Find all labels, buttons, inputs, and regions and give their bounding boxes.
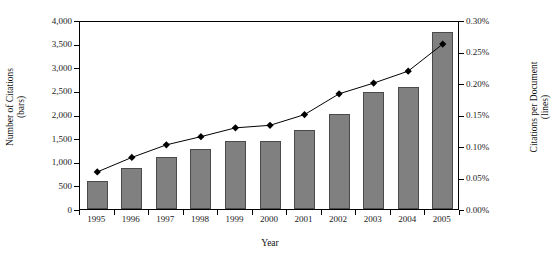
right-tick-label: 0.30% <box>466 17 512 26</box>
plot-area <box>79 21 459 210</box>
right-tick-label: 0.20% <box>466 80 512 89</box>
line-marker-1996 <box>128 154 135 161</box>
left-tick-label: 2,500 <box>30 87 72 96</box>
left-tick-label: 0 <box>30 206 72 215</box>
line-marker-2003 <box>370 80 377 87</box>
left-axis-title-line1: Number of Citations <box>5 37 16 177</box>
left-tick-label: 1,500 <box>30 135 72 144</box>
line-series-path <box>97 44 442 172</box>
line-marker-1997 <box>163 141 170 148</box>
left-tick-label: 2,000 <box>30 111 72 120</box>
citation-chart: Number of Citations (bars) Citations per… <box>0 0 556 257</box>
right-tick-label: 0.25% <box>466 48 512 57</box>
left-tick-label: 4,000 <box>30 17 72 26</box>
left-tick-label: 3,500 <box>30 40 72 49</box>
line-marker-2002 <box>335 90 342 97</box>
right-tick-label: 0.10% <box>466 143 512 152</box>
right-axis-title: Citations per Document (lines) <box>529 37 551 177</box>
right-tick-label: 0.05% <box>466 174 512 183</box>
left-tick-label: 1,000 <box>30 158 72 167</box>
left-axis-title-line2: (bars) <box>16 37 27 177</box>
line-series <box>80 22 460 211</box>
line-marker-1995 <box>94 168 101 175</box>
left-axis-title: Number of Citations (bars) <box>5 37 27 177</box>
right-axis-title-line1: Citations per Document <box>529 37 540 177</box>
right-tick-label: 0.00% <box>466 206 512 215</box>
left-tick-label: 3,000 <box>30 64 72 73</box>
left-tick-label: 500 <box>30 182 72 191</box>
line-marker-1999 <box>232 124 239 131</box>
line-series-markers <box>94 40 447 175</box>
line-marker-1998 <box>197 133 204 140</box>
line-marker-2000 <box>266 122 273 129</box>
right-tick-label: 0.15% <box>466 111 512 120</box>
right-axis-title-line2: (lines) <box>540 37 551 177</box>
line-marker-2001 <box>301 111 308 118</box>
x-tick-label: 2005 <box>419 215 465 224</box>
x-axis-title: Year <box>60 238 480 249</box>
